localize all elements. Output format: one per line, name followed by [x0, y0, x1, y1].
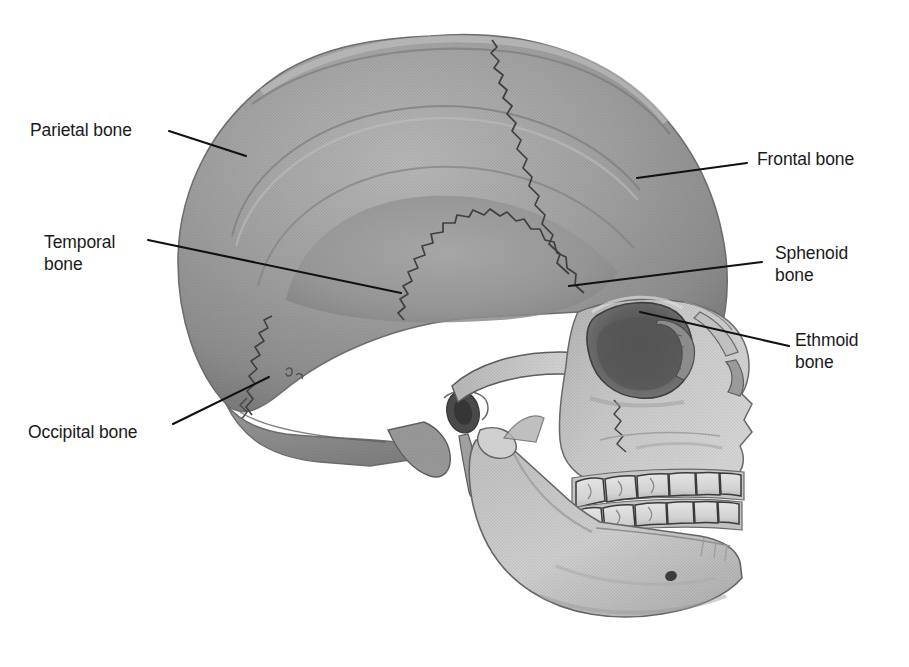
label-temporal-bone: Temporal bone [44, 231, 115, 276]
label-sphenoid-bone: Sphenoid bone [775, 242, 848, 287]
label-frontal-bone: Frontal bone [757, 148, 854, 170]
label-occipital-bone: Occipital bone [28, 421, 138, 443]
label-ethmoid-bone: Ethmoid bone [795, 329, 859, 374]
skull-diagram [0, 0, 909, 667]
label-parietal-bone: Parietal bone [30, 119, 132, 141]
facial-skeleton-group [559, 297, 752, 490]
